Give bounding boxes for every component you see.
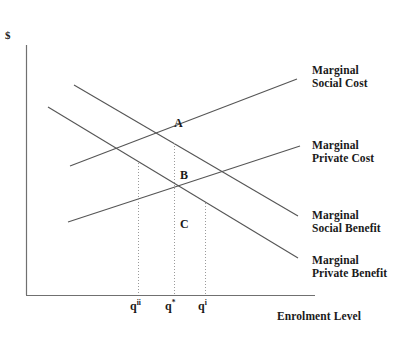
- curve-marginal-private-cost: [68, 146, 300, 222]
- tick-superscript: *: [172, 298, 176, 307]
- tick-label-q-star: q*: [165, 300, 175, 314]
- curve-label-line2: Private Benefit: [312, 267, 387, 280]
- curve-label-marginal-private-cost: Marginal Private Cost: [312, 139, 374, 165]
- tick-label-q-ii: qii: [130, 300, 141, 314]
- curve-marginal-social-benefit: [74, 85, 298, 216]
- curve-marginal-social-cost: [70, 79, 297, 166]
- curve-label-marginal-private-benefit: Marginal Private Benefit: [312, 254, 387, 280]
- x-axis-label: Enrolment Level: [277, 310, 361, 323]
- tick-base: q: [165, 299, 172, 313]
- curve-label-line2: Private Cost: [312, 152, 374, 165]
- point-label-a: A: [174, 117, 183, 131]
- point-label-c: C: [180, 218, 189, 232]
- curve-label-line2: Social Benefit: [312, 222, 381, 235]
- y-axis-label: $: [5, 29, 11, 42]
- economics-diagram: $ Marginal Social Cost Marginal Private …: [0, 0, 412, 342]
- diagram-canvas: [0, 0, 412, 342]
- curve-label-line1: Marginal: [312, 254, 387, 267]
- curve-label-line2: Social Cost: [312, 77, 368, 90]
- curve-label-marginal-social-benefit: Marginal Social Benefit: [312, 209, 381, 235]
- curve-label-marginal-social-cost: Marginal Social Cost: [312, 64, 368, 90]
- curve-marginal-private-benefit: [48, 107, 298, 258]
- tick-superscript: i: [205, 298, 207, 307]
- tick-label-q-i: qi: [198, 300, 207, 314]
- curve-label-line1: Marginal: [312, 139, 374, 152]
- tick-superscript: ii: [137, 298, 141, 307]
- curve-label-line1: Marginal: [312, 209, 381, 222]
- tick-base: q: [130, 299, 137, 313]
- tick-base: q: [198, 299, 205, 313]
- point-label-b: B: [180, 169, 188, 183]
- curve-label-line1: Marginal: [312, 64, 368, 77]
